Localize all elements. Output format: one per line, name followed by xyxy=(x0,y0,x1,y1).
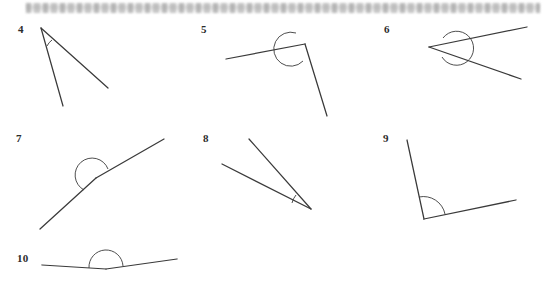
angle-arc-marker xyxy=(75,158,108,190)
angle-ray xyxy=(41,28,63,106)
angle-ray xyxy=(42,265,106,269)
angle-figure-7 xyxy=(40,139,164,229)
figure-number-label-5: 5 xyxy=(201,24,207,35)
angle-ray xyxy=(305,44,327,116)
angle-ray xyxy=(41,28,108,88)
angle-arc-marker xyxy=(274,32,303,66)
figures-group xyxy=(40,27,527,269)
figure-number-label-8: 8 xyxy=(203,133,209,144)
worksheet-page: 45678910 xyxy=(0,0,543,281)
angle-ray xyxy=(40,178,96,229)
figure-number-label-7: 7 xyxy=(16,133,22,144)
angle-arc-marker xyxy=(292,195,296,203)
angle-figure-8 xyxy=(222,139,311,209)
angle-ray xyxy=(407,140,424,219)
figure-number-label-4: 4 xyxy=(18,24,24,35)
angle-arc-marker xyxy=(47,40,52,46)
angle-figure-4 xyxy=(41,28,108,106)
angle-arc-marker xyxy=(89,250,123,268)
figure-number-label-10: 10 xyxy=(17,253,28,264)
figure-number-label-6: 6 xyxy=(384,24,390,35)
angle-ray xyxy=(96,139,164,178)
angle-ray xyxy=(429,47,521,79)
angle-arc-marker xyxy=(419,197,445,214)
angle-figure-9 xyxy=(407,140,516,219)
angle-ray xyxy=(424,200,516,219)
angle-arc-marker xyxy=(442,31,474,65)
figure-number-label-9: 9 xyxy=(383,133,389,144)
angle-ray xyxy=(222,164,311,209)
angle-ray xyxy=(249,139,311,209)
angle-figures-canvas xyxy=(0,0,543,281)
angle-ray xyxy=(226,44,305,59)
angle-ray xyxy=(429,27,527,47)
blurred-header-band-overlay xyxy=(26,2,540,14)
angle-figure-10 xyxy=(42,250,177,269)
angle-figure-6 xyxy=(429,27,527,79)
angle-figure-5 xyxy=(226,32,327,116)
angle-ray xyxy=(106,259,177,269)
